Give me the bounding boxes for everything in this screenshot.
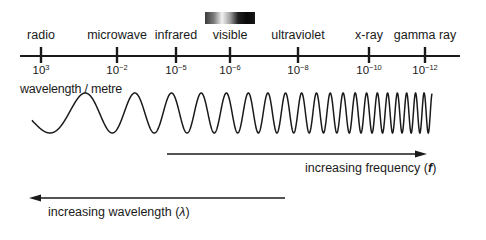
axis-unit-label: wavelength / metre [20, 82, 122, 96]
tick-value: 10−2 [106, 63, 127, 76]
band-label-visible: visible [213, 28, 248, 42]
band-label-ultraviolet: ultraviolet [271, 28, 325, 42]
wave-curve [32, 93, 432, 133]
frequency-caption: increasing frequency (f) [305, 161, 436, 175]
wavelength-caption: increasing wavelength (λ) [48, 205, 190, 219]
band-label-infrared: infrared [155, 28, 197, 42]
tick-value: 10−8 [287, 63, 308, 76]
wavelength-arrowhead [29, 195, 41, 202]
band-label-radio: radio [27, 28, 55, 42]
tick-value: 10−5 [165, 63, 186, 76]
frequency-arrowhead [415, 151, 427, 158]
band-label-x-ray: x-ray [355, 28, 383, 42]
band-label-gamma-ray: gamma ray [394, 28, 457, 42]
tick-value: 10−6 [219, 63, 240, 76]
tick-value: 103 [33, 63, 50, 76]
band-label-microwave: microwave [87, 28, 147, 42]
tick-value: 10−12 [412, 63, 438, 76]
tick-value: 10−10 [356, 63, 382, 76]
